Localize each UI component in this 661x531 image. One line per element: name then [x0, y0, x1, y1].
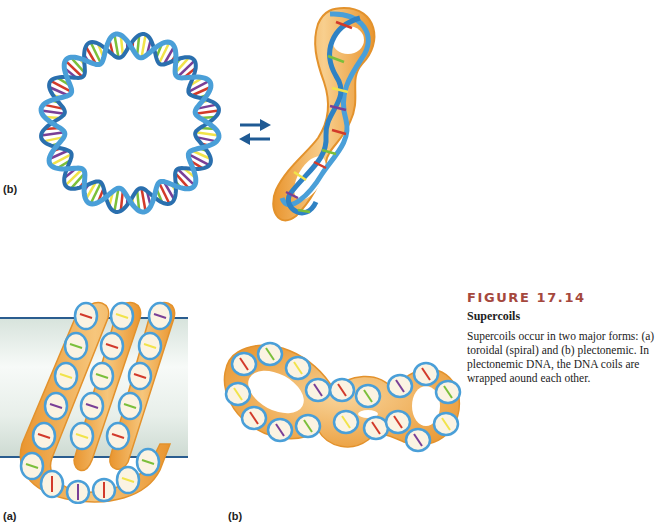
figure-number: FIGURE 17.14	[467, 290, 661, 306]
relaxed-circular-dna-illustration	[36, 24, 224, 222]
toroidal-supercoil-illustration	[0, 294, 196, 504]
plectonemic-dna-horizontal-icon	[218, 330, 462, 460]
figure-caption: FIGURE 17.14 Supercoils Supercoils occur…	[467, 290, 661, 385]
panel-label-bottom-b: (b)	[228, 510, 242, 522]
circular-dna-icon	[36, 24, 224, 222]
plectonemic-supercoil-vertical	[266, 2, 386, 230]
plectonemic-supercoil-horizontal	[218, 330, 462, 460]
figure-description: Supercoils occur in two major forms: (a)…	[467, 329, 661, 385]
panel-label-bottom-a: (a)	[3, 510, 16, 522]
panel-label-top-b: (b)	[3, 183, 17, 195]
toroidal-dna-icon	[0, 294, 196, 504]
figure-title: Supercoils	[467, 309, 661, 323]
plectonemic-dna-icon	[266, 2, 386, 230]
